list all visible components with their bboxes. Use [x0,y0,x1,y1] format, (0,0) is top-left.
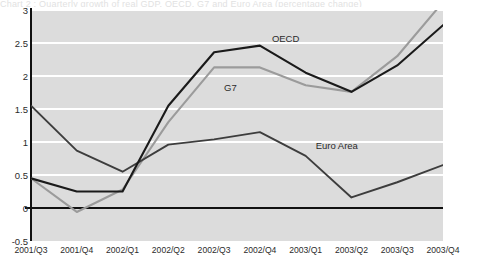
x-tick-label: 2002/Q4 [243,245,276,255]
series-label-oecd: OECD [272,33,299,44]
y-tick-label: 2.5 [0,38,28,49]
series-label-g7: G7 [224,82,237,93]
x-tick-label: 2002/Q3 [198,245,231,255]
series-label-euro-area: Euro Area [316,140,358,151]
x-tick-label: 2002/Q1 [106,245,139,255]
x-tick-label: 2003/Q4 [427,245,460,255]
x-tick-label: 2003/Q3 [381,245,414,255]
x-tick-label: 2001/Q3 [15,245,48,255]
line-chart-svg [0,0,479,268]
plot-background [31,10,443,241]
y-tick-label: 0.5 [0,170,28,181]
x-axis: 2001/Q32001/Q42002/Q12002/Q22002/Q32002/… [0,245,479,263]
x-tick-label: 2003/Q1 [289,245,322,255]
y-tick-label: 0 [0,203,28,214]
x-tick-label: 2002/Q2 [152,245,185,255]
chart-container: Chart 2 : Quarterly growth of real GDP, … [0,0,479,268]
x-tick-label: 2003/Q2 [335,245,368,255]
y-tick-label: 2 [0,71,28,82]
y-axis: -0.500.511.522.53 [0,0,28,268]
y-tick-label: 3 [0,5,28,16]
x-tick-label: 2001/Q4 [60,245,93,255]
y-tick-label: 1.5 [0,104,28,115]
y-tick-label: 1 [0,137,28,148]
plot-area [0,0,479,268]
